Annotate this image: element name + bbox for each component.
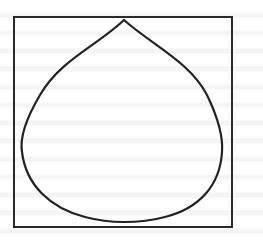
teardrop-shape xyxy=(22,20,223,222)
teardrop-diagram xyxy=(0,0,263,246)
square-frame xyxy=(14,17,232,227)
